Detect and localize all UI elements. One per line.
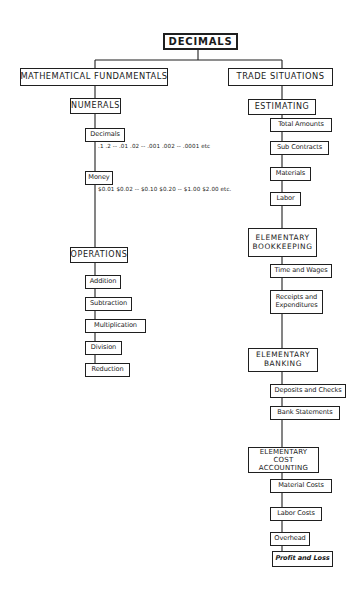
item-label: Multiplication xyxy=(94,322,137,330)
group-label: NUMERALS xyxy=(71,101,120,110)
item-label: Division xyxy=(91,344,116,352)
item-label-line2: Expenditures xyxy=(275,302,317,310)
item-subtraction: Subtraction xyxy=(85,297,132,311)
decimal-sequence-value: .1 .2 -- .01 .02 -- .001 .002 -- .0001 e… xyxy=(98,143,210,149)
item-reduction: Reduction xyxy=(85,363,130,377)
item-label: Total Amounts xyxy=(278,121,324,129)
item-material-costs: Material Costs xyxy=(270,479,332,493)
item-money: Money xyxy=(85,171,113,185)
item-label: Time and Wages xyxy=(274,267,327,275)
money-sequence-value: $0.01 $0.02 -- $0.10 $0.20 -- $1.00 $2.0… xyxy=(98,186,231,192)
decimals-tree-diagram: DECIMALS MATHEMATICAL FUNDAMENTALS NUMER… xyxy=(0,0,364,590)
item-label: Bank Statements xyxy=(277,409,332,417)
item-label: Material Costs xyxy=(278,482,324,490)
money-sequence-text: $0.01 $0.02 -- $0.10 $0.20 -- $1.00 $2.0… xyxy=(98,186,231,192)
item-time-and-wages: Time and Wages xyxy=(270,264,332,278)
item-label: Deposits and Checks xyxy=(274,387,341,395)
item-label: Money xyxy=(88,174,109,182)
group-label-line2: BANKING xyxy=(264,360,302,369)
group-elementary-banking: ELEMENTARY BANKING xyxy=(248,348,318,372)
root-node-decimals: DECIMALS xyxy=(163,33,238,50)
branch-trade-situations: TRADE SITUATIONS xyxy=(228,68,333,86)
branch-label: TRADE SITUATIONS xyxy=(237,72,325,82)
item-overhead: Overhead xyxy=(270,532,310,546)
item-label: Addition xyxy=(90,278,116,286)
group-elementary-cost-accounting: ELEMENTARY COST ACCOUNTING xyxy=(248,447,319,473)
item-materials: Materials xyxy=(270,167,311,181)
item-bank-statements: Bank Statements xyxy=(270,406,340,420)
item-multiplication: Multiplication xyxy=(85,319,146,333)
item-addition: Addition xyxy=(85,275,121,289)
item-labor: Labor xyxy=(270,192,301,206)
item-receipts-and-expenditures: Receipts and Expenditures xyxy=(270,290,323,314)
group-estimating: ESTIMATING xyxy=(248,99,316,115)
group-label: ESTIMATING xyxy=(255,102,310,111)
item-division: Division xyxy=(85,341,122,355)
item-profit-and-loss: Profit and Loss xyxy=(272,551,333,567)
item-label: Sub Contracts xyxy=(277,144,322,152)
branch-label: MATHEMATICAL FUNDAMENTALS xyxy=(20,72,167,82)
group-label-line1: ELEMENTARY xyxy=(260,448,308,456)
item-total-amounts: Total Amounts xyxy=(270,118,332,132)
item-label: Reduction xyxy=(91,366,123,374)
branch-mathematical-fundamentals: MATHEMATICAL FUNDAMENTALS xyxy=(20,68,168,86)
item-label: Labor Costs xyxy=(277,510,315,518)
item-label: Profit and Loss xyxy=(275,555,329,563)
decimal-sequence-text: .1 .2 -- .01 .02 -- .001 .002 -- .0001 e… xyxy=(98,143,210,149)
item-decimals: Decimals xyxy=(85,128,125,142)
group-operations: OPERATIONS xyxy=(70,247,128,263)
group-label-line2: COST ACCOUNTING xyxy=(249,456,318,472)
group-numerals: NUMERALS xyxy=(70,98,121,114)
item-labor-costs: Labor Costs xyxy=(270,507,322,521)
item-label: Subtraction xyxy=(90,300,127,308)
item-deposits-and-checks: Deposits and Checks xyxy=(270,384,346,398)
item-label: Materials xyxy=(276,170,305,178)
group-label-line2: BOOKKEEPING xyxy=(252,243,312,252)
group-elementary-bookkeeping: ELEMENTARY BOOKKEEPING xyxy=(248,228,317,257)
item-label: Overhead xyxy=(274,535,305,543)
group-label: OPERATIONS xyxy=(71,250,128,259)
item-sub-contracts: Sub Contracts xyxy=(270,141,329,155)
item-label: Decimals xyxy=(90,131,120,139)
item-label: Labor xyxy=(276,195,294,203)
root-node-label: DECIMALS xyxy=(169,36,233,48)
